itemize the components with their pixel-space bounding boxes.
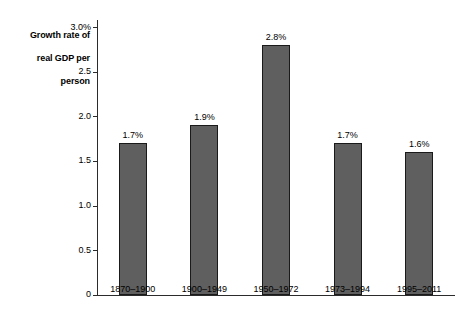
y-axis-tick-mark [93, 161, 98, 162]
y-axis-tick-label: 2.5 [78, 65, 91, 77]
bar[interactable]: 1.7% [119, 143, 147, 295]
bar[interactable]: 1.7% [334, 143, 362, 295]
x-axis-category-label: 1950–1972 [240, 283, 312, 295]
bar-chart: Growth rate of real GDP per person 00.51… [0, 0, 470, 333]
y-axis-tick-label: 0 [86, 288, 91, 300]
bar[interactable]: 2.8% [262, 45, 290, 295]
y-axis-tick-label: 3.0% [70, 21, 91, 33]
x-axis-category-label: 1870–1900 [97, 283, 169, 295]
y-axis-tick-mark [93, 72, 98, 73]
y-axis-tick-mark [93, 27, 98, 28]
bar[interactable]: 1.9% [190, 125, 218, 295]
y-axis-title-line-2: real GDP per [12, 53, 90, 65]
plot-area: 00.51.01.52.02.53.0% 1.7%1.9%2.8%1.7%1.6… [97, 20, 455, 296]
bar-value-label: 1.7% [337, 130, 358, 141]
x-axis-category-label: 1995–2011 [383, 283, 455, 295]
y-axis-tick-mark [93, 206, 98, 207]
y-axis-title-line-3: person [12, 76, 90, 88]
y-axis-tick-label: 0.5 [78, 244, 91, 256]
bar-value-label: 1.6% [409, 139, 430, 150]
x-axis-category-label: 1900–1949 [169, 283, 241, 295]
bar-value-label: 1.7% [123, 130, 144, 141]
bar-value-label: 1.9% [194, 112, 215, 123]
y-axis-tick-mark [93, 250, 98, 251]
bar[interactable]: 1.6% [405, 152, 433, 295]
x-axis-category-label: 1973–1994 [312, 283, 384, 295]
bar-value-label: 2.8% [266, 32, 287, 43]
y-axis-line [97, 20, 98, 296]
y-axis-tick-label: 1.0 [78, 199, 91, 211]
y-axis-tick-label: 1.5 [78, 154, 91, 166]
y-axis-tick-label: 2.0 [78, 110, 91, 122]
y-axis-tick-mark [93, 116, 98, 117]
